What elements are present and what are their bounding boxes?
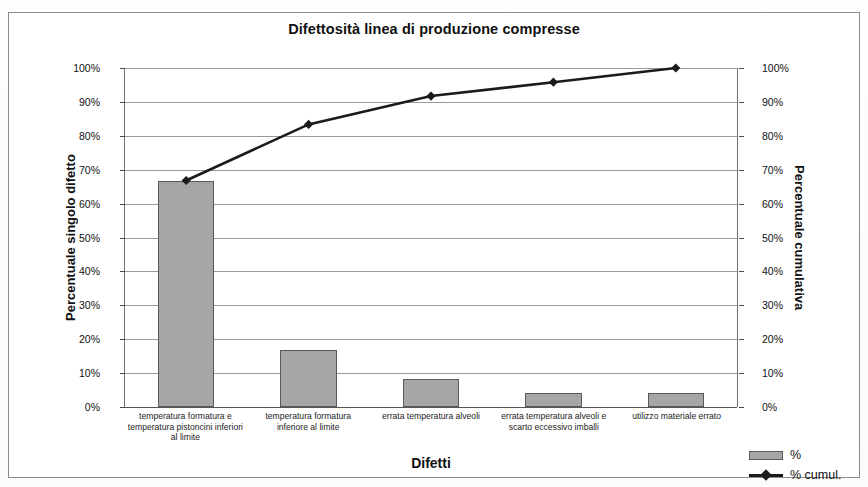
line-marker[interactable] <box>304 120 313 129</box>
x-axis-category-label: errata temperatura alveoli e scarto ecce… <box>492 411 615 455</box>
y-axis-tick-label-right: 70% <box>762 164 783 176</box>
x-axis-category-label: temperatura formatura e temperatura pist… <box>124 411 247 455</box>
legend-bar-swatch-icon <box>749 451 783 460</box>
y-axis-tick-label-right: 30% <box>762 299 783 311</box>
line-marker[interactable] <box>671 63 680 72</box>
legend-label-line: % cumul. <box>790 468 841 482</box>
y-axis-tick-right <box>739 170 744 171</box>
legend-item-bar: % <box>749 445 841 465</box>
y-axis-tick-label-left: 70% <box>79 164 100 176</box>
y-axis-tick-label-left: 10% <box>79 367 100 379</box>
y-axis-tick-label-right: 80% <box>762 130 783 142</box>
y-axis-tick-right <box>739 68 744 69</box>
y-axis-title-left: Percentuale singolo difetto <box>61 65 79 410</box>
y-axis-tick-label-right: 10% <box>762 367 783 379</box>
y-axis-tick-right <box>739 136 744 137</box>
legend-line-swatch-icon <box>749 471 783 480</box>
line-marker[interactable] <box>182 176 191 185</box>
y-axis-tick-label-left: 100% <box>73 62 100 74</box>
y-axis-tick-right <box>739 204 744 205</box>
chart-legend: % % cumul. <box>749 445 841 485</box>
y-axis-tick-label-left: 90% <box>79 96 100 108</box>
y-axis-tick-right <box>739 373 744 374</box>
y-axis-tick-label-left: 30% <box>79 299 100 311</box>
gridline <box>125 407 737 408</box>
x-axis-category-label: utilizzo materiale errato <box>615 411 738 455</box>
plot-area: 100%100%90%90%80%80%70%70%60%60%50%50%40… <box>124 68 738 407</box>
y-axis-tick-label-right: 90% <box>762 96 783 108</box>
y-axis-tick-label-left: 20% <box>79 333 100 345</box>
y-axis-tick-right <box>739 271 744 272</box>
y-axis-tick-right <box>739 102 744 103</box>
x-axis-title: Difetti <box>124 455 738 471</box>
y-axis-title-right: Percentuale cumulativa <box>790 65 808 410</box>
y-axis-tick-label-right: 60% <box>762 198 783 210</box>
x-axis-category-labels: temperatura formatura e temperatura pist… <box>124 411 738 455</box>
chart-frame: Difettosità linea di produzione compress… <box>8 12 860 478</box>
y-axis-tick-right <box>739 238 744 239</box>
y-axis-tick-label-left: 60% <box>79 198 100 210</box>
y-axis-tick-label-left: 80% <box>79 130 100 142</box>
legend-item-line: % cumul. <box>749 465 841 485</box>
y-axis-tick-label-right: 100% <box>762 62 789 74</box>
y-axis-tick-label-right: 40% <box>762 265 783 277</box>
y-axis-tick-left <box>120 407 125 408</box>
line-marker[interactable] <box>549 78 558 87</box>
legend-label-bar: % <box>790 448 801 462</box>
x-axis-category-label: temperatura formatura inferiore al limit… <box>247 411 370 455</box>
y-axis-tick-label-right: 20% <box>762 333 783 345</box>
cumulative-line-series <box>125 68 737 406</box>
y-axis-tick-label-right: 0% <box>762 401 777 413</box>
cumulative-line <box>186 68 676 181</box>
y-axis-tick-label-right: 50% <box>762 232 783 244</box>
y-axis-tick-right <box>739 407 744 408</box>
y-axis-tick-label-left: 50% <box>79 232 100 244</box>
y-axis-tick-label-left: 0% <box>85 401 100 413</box>
y-axis-tick-right <box>739 305 744 306</box>
x-axis-category-label: errata temperatura alveoli <box>370 411 493 455</box>
chart-title: Difettosità linea di produzione compress… <box>9 21 859 37</box>
y-axis-tick-right <box>739 339 744 340</box>
line-marker[interactable] <box>426 91 435 100</box>
y-axis-tick-label-left: 40% <box>79 265 100 277</box>
